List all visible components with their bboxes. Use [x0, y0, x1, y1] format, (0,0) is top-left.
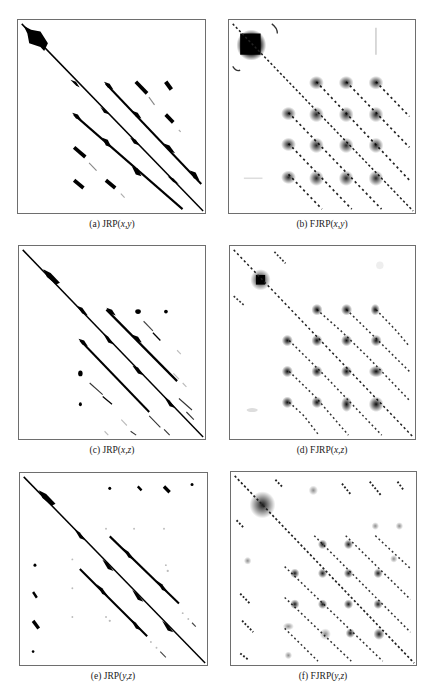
recurrence-plot-d [230, 246, 415, 439]
recurrence-plot-c [19, 246, 205, 439]
panel-b-fjrp-xy [228, 19, 416, 214]
panel-a-jrp-xy [17, 19, 206, 214]
panel-c-jrp-xz [18, 245, 206, 440]
recurrence-plot-b [229, 20, 415, 213]
caption-c: (c) JRP(x,z) [12, 445, 212, 455]
panel-e-jrp-yz [19, 472, 208, 666]
caption-d: (d) FJRP(x,z) [222, 445, 422, 455]
caption-e: (e) JRP(y,z) [13, 671, 213, 681]
recurrence-plot-e [20, 473, 207, 665]
caption-b: (b) FJRP(x,y) [222, 219, 422, 229]
panel-d-fjrp-xz [229, 245, 416, 440]
caption-a: (a) JRP(x,y) [12, 219, 212, 229]
recurrence-plot-a [18, 20, 205, 213]
panel-f-fjrp-yz [230, 471, 417, 666]
caption-f: (f) FJRP(y,z) [223, 671, 423, 681]
recurrence-plot-f [231, 472, 416, 665]
